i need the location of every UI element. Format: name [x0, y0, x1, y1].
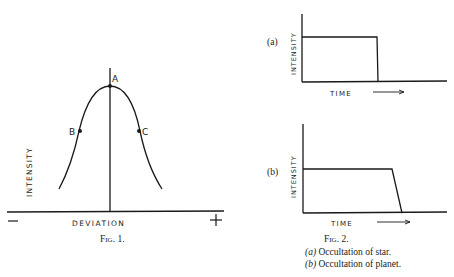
fig2-legend-b-text: Occultation of planet. — [316, 259, 401, 269]
fig2-legend-a-key: (a) — [305, 247, 316, 258]
fig2b-diagram — [303, 124, 447, 213]
fig1-y-label: INTENSITY — [25, 147, 34, 197]
fig2a-x-axis — [302, 81, 447, 82]
fig2b-y-label: INTENSITY — [290, 155, 298, 198]
fig2b-panel-label: (b) — [267, 167, 278, 178]
fig2a-panel-label: (a) — [267, 37, 278, 48]
fig2b-x-label: TIME — [330, 220, 353, 228]
fig2b-time-arrow-icon — [377, 220, 410, 224]
fig1-x-axis — [7, 211, 224, 212]
fig1-label-c: C — [142, 127, 148, 137]
fig2-legend-a-text: Occultation of star. — [316, 247, 391, 257]
fig2a-diagram — [302, 14, 447, 82]
fig2a-star-curve — [302, 37, 378, 82]
fig1-point-c-marker — [138, 130, 141, 133]
fig2-legend-a: (a) Occultation of star. — [305, 247, 391, 258]
fig2b-planet-curve — [303, 169, 402, 213]
figure-canvas: A B C INTENSITY DEVIATION Fig. 1. (a) IN… — [0, 0, 454, 277]
fig1-plus-sign — [210, 214, 222, 226]
fig1-label-b: B — [69, 127, 75, 137]
fig2a-time-arrow-icon — [373, 90, 404, 94]
fig2-legend-b: (b) Occultation of planet. — [305, 259, 401, 270]
fig2b-x-axis — [303, 212, 447, 213]
fig2-legend-b-key: (b) — [305, 259, 316, 270]
fig1-label-a: A — [112, 74, 119, 84]
fig1-x-label: DEVIATION — [72, 219, 125, 228]
fig1-caption: Fig. 1. — [100, 234, 125, 244]
fig1-point-a-marker — [109, 85, 112, 88]
fig2-caption: Fig. 2. — [324, 234, 349, 244]
fig2a-x-label: TIME — [329, 90, 352, 98]
fig1-diagram — [7, 68, 224, 212]
fig2a-y-label: INTENSITY — [290, 32, 298, 75]
fig1-point-b-marker — [79, 130, 82, 133]
